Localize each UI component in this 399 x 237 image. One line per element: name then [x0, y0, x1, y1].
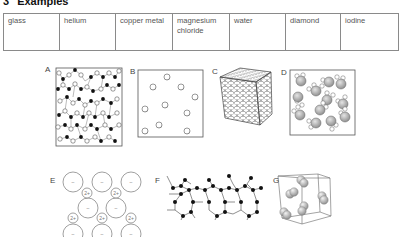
section-heading: 3Examples [3, 0, 69, 7]
glass-network-diagram [55, 67, 123, 147]
table-cell-diamond: diamond [286, 14, 341, 51]
table-cell-helium: helium [60, 14, 116, 51]
helium-gas-diagram [137, 69, 205, 139]
diagram-label-a: A [45, 65, 50, 74]
table-cell-glass: glass [4, 14, 60, 51]
positive-ion-label: 2+ [113, 190, 119, 196]
negative-ion-label: – [101, 231, 104, 237]
diagram-label-e: E [50, 176, 55, 185]
water-molecules-diagram [289, 69, 357, 137]
diagram-label-d: D [281, 68, 287, 77]
table-row: glass helium copper metal magnesium chlo… [4, 14, 399, 51]
diagram-label-b: B [130, 67, 135, 76]
table-cell-copper-metal: copper metal [116, 14, 173, 51]
negative-ion-label: – [101, 179, 104, 185]
magnesium-chloride-lattice-diagram: – – – – – – – – 2+ 2+ 2+ 2+ 2+ [60, 168, 146, 237]
negative-ion-label: – [72, 231, 75, 237]
table-cell-magnesium-chloride: magnesium chloride [173, 14, 230, 51]
positive-ion-label: 2+ [70, 215, 76, 221]
iodine-unit-cell-diagram [274, 172, 342, 228]
positive-ion-label: 2+ [84, 190, 90, 196]
diamond-network-diagram [165, 172, 265, 220]
diagram-label-f: F [155, 176, 160, 185]
negative-ion-label: – [87, 205, 90, 211]
negative-ion-label: – [130, 231, 133, 237]
examples-table: glass helium copper metal magnesium chlo… [3, 13, 399, 51]
positive-ion-label: 2+ [99, 215, 105, 221]
section-number: 3 [3, 0, 9, 7]
copper-metal-cube-diagram [216, 64, 276, 130]
table-cell-water: water [230, 14, 286, 51]
negative-ion-label: – [130, 179, 133, 185]
negative-ion-label: – [72, 179, 75, 185]
section-title: Examples [17, 0, 68, 7]
table-cell-iodine: iodine [341, 14, 399, 51]
negative-ion-label: – [115, 205, 118, 211]
positive-ion-label: 2+ [128, 215, 134, 221]
